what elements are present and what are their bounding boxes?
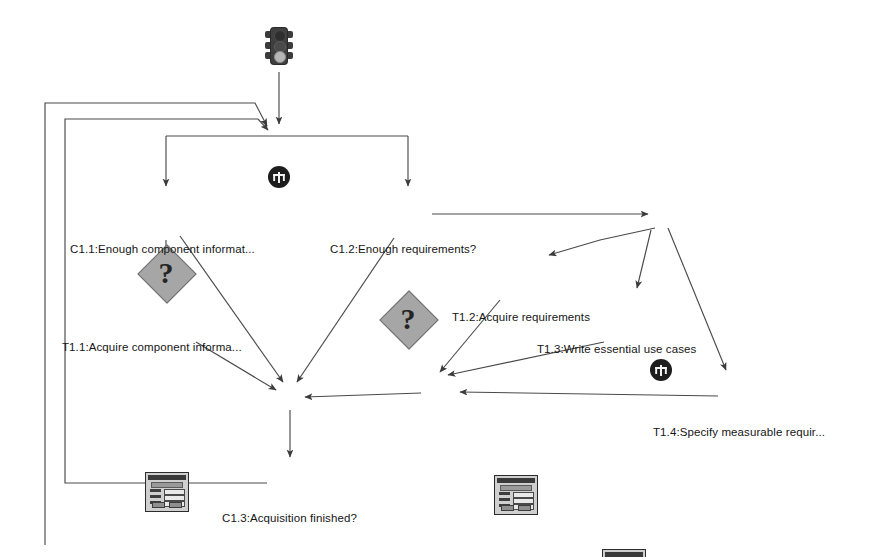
question-mark-icon: ?	[143, 250, 189, 296]
trident-icon	[271, 169, 287, 185]
traffic-light-ear-right	[286, 31, 293, 38]
traffic-light-ear-right-3	[286, 52, 293, 59]
task-node-t12[interactable]	[494, 475, 538, 515]
task-icon-label-1	[150, 489, 161, 492]
task-icon-button-2	[169, 502, 182, 508]
traffic-light-ear-right-2	[286, 42, 293, 49]
task-icon-button-1	[501, 505, 514, 511]
task-icon-label-1	[499, 492, 510, 495]
question-mark-icon: ?	[385, 296, 431, 342]
task-icon-button-1	[152, 502, 165, 508]
edge-join1-join2	[305, 393, 421, 397]
task-node-t11[interactable]	[145, 472, 189, 512]
decision-label-c13: C1.3:Acquisition finished?	[222, 512, 357, 525]
decision-node-c12[interactable]: ?	[385, 296, 431, 342]
task-label-t13: T1.3:Write essential use cases	[537, 343, 696, 356]
task-label-t11: T1.1:Acquire component informa...	[62, 341, 242, 354]
edge-layer	[0, 0, 878, 557]
task-icon-field-wide	[500, 485, 532, 491]
task-label-t14: T1.4:Specify measurable requir...	[653, 426, 825, 439]
decision-node-c11[interactable]: ?	[143, 250, 189, 296]
start-node-traffic-light-icon[interactable]	[265, 26, 293, 66]
fork-node-top[interactable]	[268, 166, 290, 188]
task-icon-button-2	[518, 505, 531, 511]
task-icon-titlebar	[148, 475, 186, 480]
edge-fork1-t13	[637, 230, 651, 288]
task-icon-titlebar	[605, 552, 643, 557]
trident-icon	[653, 362, 669, 378]
decision-label-c11: C1.1:Enough component informat...	[70, 243, 255, 256]
edge-c11-join2	[180, 236, 283, 382]
traffic-light-lamp-bottom	[274, 51, 286, 63]
decision-label-c12: C1.2:Enough requirements?	[330, 243, 476, 256]
task-icon-titlebar	[497, 478, 535, 483]
edge-fork1-t12	[549, 228, 655, 255]
task-label-t12: T1.2:Acquire requirements	[452, 311, 590, 324]
task-icon-label-2	[499, 498, 510, 501]
fork-node-right[interactable]	[650, 359, 672, 381]
diagram-canvas: ? C1.1:Enough component informat... ? C1…	[0, 0, 878, 557]
task-node-t13[interactable]	[602, 549, 646, 557]
edge-c12-join2	[297, 238, 394, 382]
edge-t14-join1	[460, 392, 718, 396]
task-icon-label-2	[150, 495, 161, 498]
task-icon-field-wide	[151, 482, 183, 488]
